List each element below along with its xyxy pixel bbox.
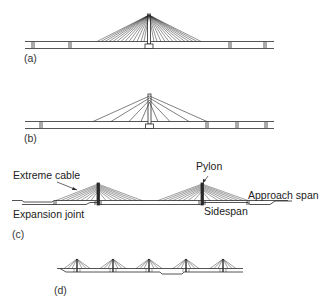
annotation-expansion-joint: Expansion joint — [13, 209, 84, 220]
panel-label-b: (b) — [24, 133, 37, 144]
panel-b-drawing — [25, 94, 274, 129]
panel-a-drawing — [25, 14, 274, 49]
panel-d-drawing — [57, 259, 243, 274]
annotation-pylon: Pylon — [196, 161, 222, 172]
annotation-extreme-cable: Extreme cable — [13, 170, 80, 181]
bridge-diagram — [0, 0, 331, 306]
panel-label-c: (c) — [12, 229, 24, 240]
annotation-sidespan: Sidespan — [204, 206, 248, 217]
panel-label-a: (a) — [24, 53, 37, 64]
annotation-approach-span: Approach span — [248, 190, 319, 201]
panel-label-d: (d) — [54, 285, 67, 296]
